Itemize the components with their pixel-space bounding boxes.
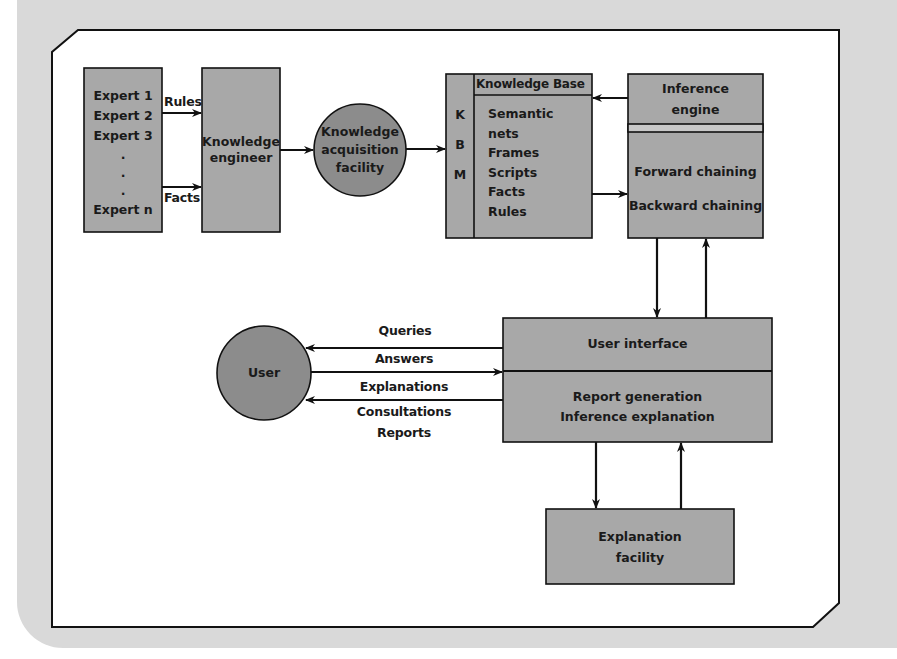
ui-bottom-line-1: Report generation <box>573 387 702 407</box>
ef-line-2: facility <box>616 547 664 568</box>
forward-chaining: Forward chaining <box>634 155 756 189</box>
inference-engine-title: Inference engine <box>628 74 763 124</box>
expert-ellipsis-3: . <box>121 182 126 200</box>
explanation-facility-label: Explanation facility <box>546 509 734 584</box>
ie-title-line-2: engine <box>672 99 720 120</box>
label-rules: Rules <box>164 94 202 110</box>
knowledge-base-header: Knowledge Base <box>476 77 585 92</box>
ui-bottom-line-2: Inference explanation <box>560 407 715 427</box>
user-interface-bottom-label: Report generation Inference explanation <box>503 372 772 442</box>
label-consultations: Consultations <box>357 404 451 420</box>
ie-title-line-1: Inference <box>662 78 729 99</box>
inference-engine-separator <box>628 124 763 132</box>
kb-item: Facts <box>488 182 554 202</box>
expert-3: Expert 3 <box>93 126 152 146</box>
kaf-line-3: facility <box>336 159 384 177</box>
label-explanations: Explanations <box>360 379 448 395</box>
kbm-letter-m: M <box>454 160 466 190</box>
expert-ellipsis-1: . <box>121 146 126 164</box>
experts-list: Expert 1 Expert 2 Expert 3 . . . Expert … <box>84 86 162 218</box>
ui-top-text: User interface <box>587 336 687 353</box>
label-facts: Facts <box>164 190 200 206</box>
user-label: User <box>217 326 311 420</box>
user-interface-top-label: User interface <box>503 318 772 371</box>
ke-line-1: Knowledge <box>202 134 280 151</box>
kbm-letter-b: B <box>455 130 465 160</box>
backward-chaining: Backward chaining <box>629 189 762 223</box>
ef-line-1: Explanation <box>598 526 681 547</box>
label-queries: Queries <box>379 323 432 339</box>
kb-item: nets <box>488 124 554 144</box>
knowledge-base-items: Semantic nets Frames Scripts Facts Rules <box>488 104 554 221</box>
kbm-letters: K B M <box>446 100 474 180</box>
kbm-letter-k: K <box>455 100 465 130</box>
knowledge-engineer-label: Knowledge engineer <box>200 68 282 232</box>
expert-2: Expert 2 <box>93 106 152 126</box>
label-answers: Answers <box>375 351 433 367</box>
kb-item: Semantic <box>488 104 554 124</box>
label-reports: Reports <box>377 425 431 441</box>
user-text: User <box>248 365 280 382</box>
expert-1: Expert 1 <box>93 86 152 106</box>
kb-item: Rules <box>488 202 554 222</box>
kb-item: Scripts <box>488 163 554 183</box>
kaf-line-1: Knowledge <box>321 123 399 141</box>
expert-ellipsis-2: . <box>121 164 126 182</box>
expert-n: Expert n <box>93 200 152 220</box>
ke-line-2: engineer <box>210 150 273 167</box>
kaf-line-2: acquisition <box>321 141 398 159</box>
knowledge-acquisition-label: Knowledge acquisition facility <box>314 104 406 196</box>
inference-engine-methods: Forward chaining Backward chaining <box>626 155 765 225</box>
kb-item: Frames <box>488 143 554 163</box>
